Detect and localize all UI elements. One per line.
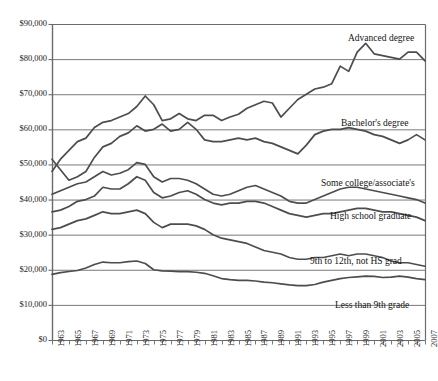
x-axis-tick-label: 1997	[344, 330, 354, 347]
y-axis-tick-label: $50,000	[19, 158, 47, 168]
y-axis-tick-label: $20,000	[19, 264, 47, 274]
x-axis-tick-label: 1991	[293, 330, 303, 347]
y-axis-tick-label: $80,000	[19, 53, 47, 63]
x-axis-tick-label: 1999	[361, 330, 371, 347]
series-line-1	[52, 122, 425, 180]
y-axis-tick-label: $10,000	[19, 299, 47, 309]
series-label: Bachelor's degree	[341, 118, 408, 128]
series-label: Some college/associate's	[321, 178, 415, 188]
series-line-0	[52, 43, 425, 171]
x-axis-tick-label: 1965	[73, 330, 83, 347]
x-axis-tick-label: 1987	[259, 330, 269, 347]
x-axis-tick-label: 1963	[56, 330, 66, 347]
series-label: Less than 9th grade	[335, 300, 409, 310]
series-label: High school graduate	[330, 211, 411, 221]
x-axis-tick-label: 1969	[107, 330, 117, 347]
y-axis-tick-label: $40,000	[19, 194, 47, 204]
chart-plot-area	[0, 0, 438, 381]
x-axis-tick-label: 2001	[378, 330, 388, 347]
y-axis-tick-label: $90,000	[19, 18, 47, 28]
y-axis-tick-label: $0	[39, 334, 48, 344]
y-axis-tick-label: $60,000	[19, 123, 47, 133]
x-axis-tick-label: 1983	[226, 330, 236, 347]
x-axis-tick-label: 1981	[209, 330, 219, 347]
y-axis-tick-label: $30,000	[19, 229, 47, 239]
series-label: Advanced degree	[348, 33, 414, 43]
x-axis-tick-label: 1971	[124, 330, 134, 347]
x-axis-tick-label: 1993	[310, 330, 320, 347]
x-axis-tick-label: 1973	[141, 330, 151, 347]
x-axis-tick-label: 1979	[192, 330, 202, 347]
y-axis-tick-label: $70,000	[19, 88, 47, 98]
x-axis-tick-label: 1975	[158, 330, 168, 347]
x-axis-tick-label: 1977	[175, 330, 185, 347]
x-axis-tick-label: 2005	[412, 330, 422, 347]
x-axis-tick-label: 2003	[395, 330, 405, 347]
series-label: 9th to 12th, not HS grad	[310, 256, 402, 266]
x-axis-tick-label: 2007	[429, 330, 438, 347]
x-axis-tick-label: 1995	[327, 330, 337, 347]
x-axis-tick-label: 1985	[243, 330, 253, 347]
x-axis-tick-label: 1989	[276, 330, 286, 347]
income-by-education-line-chart: $90,000$80,000$70,000$60,000$50,000$40,0…	[0, 0, 438, 381]
x-axis-tick-label: 1967	[90, 330, 100, 347]
